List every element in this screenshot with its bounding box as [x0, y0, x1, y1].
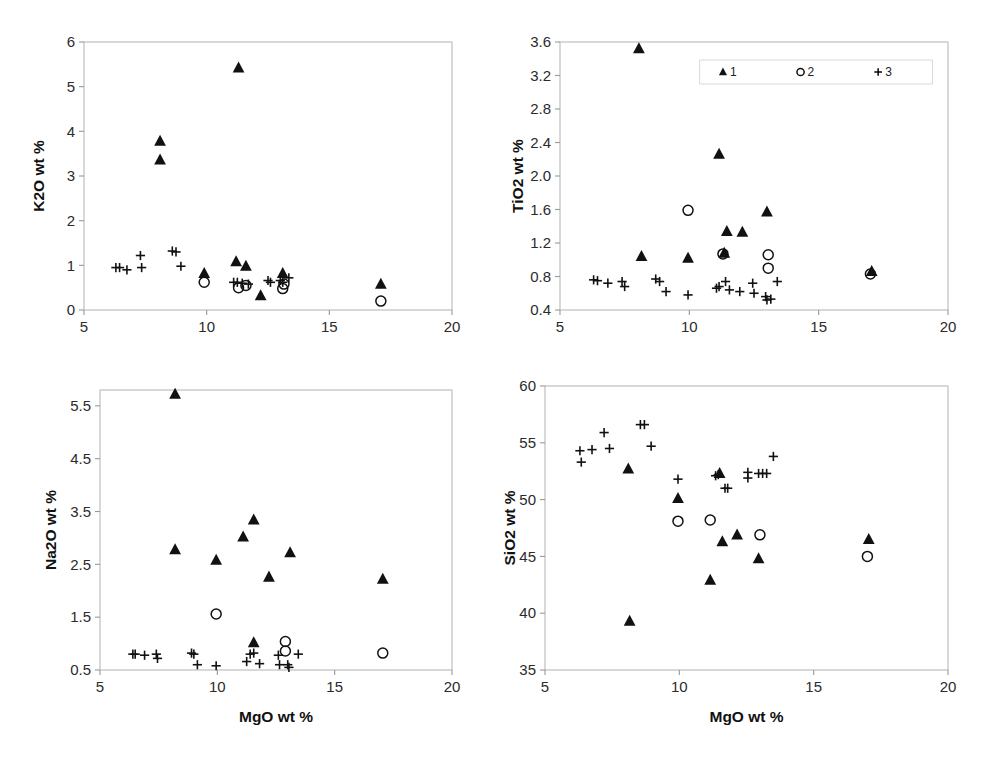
data-point-plus	[661, 287, 670, 296]
y-tick-label: 5	[67, 78, 75, 95]
data-point-plus	[769, 452, 778, 461]
y-axis-title: K2O wt %	[30, 140, 47, 212]
data-point-plus	[212, 661, 221, 670]
data-point-triangle	[210, 554, 222, 565]
scatter-panel-k2o: 01234565101520K2O wt %	[0, 0, 497, 378]
x-tick-label: 15	[321, 318, 338, 335]
data-point-plus	[725, 285, 734, 294]
series-3	[128, 648, 303, 671]
scatter-panel-tio2: 0.40.81.21.62.02.42.83.23.65101520TiO2 w…	[497, 0, 994, 378]
data-point-plus	[122, 265, 131, 274]
y-axis-title: Na2O wt %	[42, 490, 59, 570]
data-point-triangle	[716, 535, 728, 546]
x-tick-label: 20	[940, 318, 957, 335]
series-1	[154, 62, 387, 301]
data-point-circle	[763, 250, 773, 260]
y-tick-label: 2.8	[530, 100, 551, 117]
plot-area-na2o: 0.51.52.53.54.55.55101520Na2O wt %MgO wt…	[0, 370, 497, 757]
data-point-plus	[131, 650, 140, 659]
y-tick-label: 60	[519, 377, 536, 394]
y-tick-label: 2	[67, 212, 75, 229]
data-point-plus	[735, 287, 744, 296]
y-tick-label: 0.4	[530, 301, 551, 318]
series-1	[622, 463, 874, 626]
data-point-triangle	[169, 543, 181, 554]
data-point-triangle	[731, 528, 743, 539]
data-point-triangle	[284, 546, 296, 557]
series-3	[575, 420, 778, 493]
data-point-triangle	[633, 42, 645, 53]
data-point-triangle	[230, 255, 242, 266]
y-tick-label: 3.6	[530, 33, 551, 50]
y-tick-label: 1.5	[70, 608, 91, 625]
data-point-triangle	[622, 463, 634, 474]
data-point-triangle	[863, 533, 875, 544]
data-point-circle	[199, 277, 209, 287]
data-point-triangle	[248, 636, 260, 647]
x-tick-label: 10	[198, 318, 215, 335]
y-tick-label: 40	[519, 604, 536, 621]
y-tick-label: 1.2	[530, 234, 551, 251]
data-point-triangle	[375, 278, 387, 289]
x-tick-label: 20	[940, 678, 957, 695]
x-tick-label: 15	[805, 678, 822, 695]
x-tick-label: 10	[209, 678, 226, 695]
data-point-circle	[673, 516, 683, 526]
x-tick-label: 15	[326, 678, 343, 695]
data-point-plus	[587, 445, 596, 454]
x-tick-label: 5	[541, 678, 549, 695]
data-point-plus	[189, 650, 198, 659]
data-point-plus	[603, 279, 612, 288]
series-3	[111, 246, 293, 288]
x-axis-title: MgO wt %	[709, 708, 783, 725]
y-tick-label: 0.5	[70, 661, 91, 678]
y-tick-label: 4.5	[70, 450, 91, 467]
data-point-triangle	[154, 154, 166, 165]
data-point-triangle	[736, 226, 748, 237]
data-point-plus	[748, 279, 757, 288]
data-point-plus	[743, 473, 752, 482]
y-tick-label: 0	[67, 301, 75, 318]
series-2	[199, 277, 386, 306]
data-point-plus	[600, 428, 609, 437]
data-point-plus	[153, 654, 162, 663]
data-point-plus	[193, 660, 202, 669]
data-point-plus	[683, 290, 692, 299]
series-2	[683, 205, 875, 279]
data-point-circle	[376, 296, 386, 306]
series-2	[673, 515, 872, 561]
plot-area-tio2: 0.40.81.21.62.02.42.83.23.65101520TiO2 w…	[497, 0, 994, 378]
data-point-plus	[274, 651, 283, 660]
data-point-triangle	[233, 62, 245, 73]
data-point-triangle	[704, 574, 716, 585]
plot-area-k2o: 01234565101520K2O wt %	[0, 0, 497, 378]
data-point-triangle	[255, 289, 267, 300]
data-point-triangle	[761, 206, 773, 217]
data-point-circle	[378, 648, 388, 658]
plot-frame	[84, 42, 452, 310]
data-point-plus	[136, 251, 145, 260]
data-point-triangle	[154, 135, 166, 146]
data-point-plus	[575, 446, 584, 455]
data-point-plus	[140, 651, 149, 660]
data-point-triangle	[624, 615, 636, 626]
data-point-triangle	[713, 148, 725, 159]
x-tick-label: 10	[681, 318, 698, 335]
x-tick-label: 20	[444, 318, 461, 335]
data-point-plus	[137, 263, 146, 272]
data-point-circle	[211, 609, 221, 619]
data-point-plus	[773, 277, 782, 286]
data-point-plus	[176, 262, 185, 271]
plot-frame	[545, 386, 948, 670]
y-tick-label: 6	[67, 33, 75, 50]
x-tick-label: 20	[444, 678, 461, 695]
data-point-plus	[647, 442, 656, 451]
data-point-circle	[705, 515, 715, 525]
data-point-plus	[294, 650, 303, 659]
data-point-plus	[152, 650, 161, 659]
series-2	[211, 609, 388, 658]
x-axis-title: MgO wt %	[239, 708, 313, 725]
data-point-circle	[862, 551, 872, 561]
y-tick-label: 45	[519, 548, 536, 565]
data-point-triangle	[636, 250, 648, 261]
